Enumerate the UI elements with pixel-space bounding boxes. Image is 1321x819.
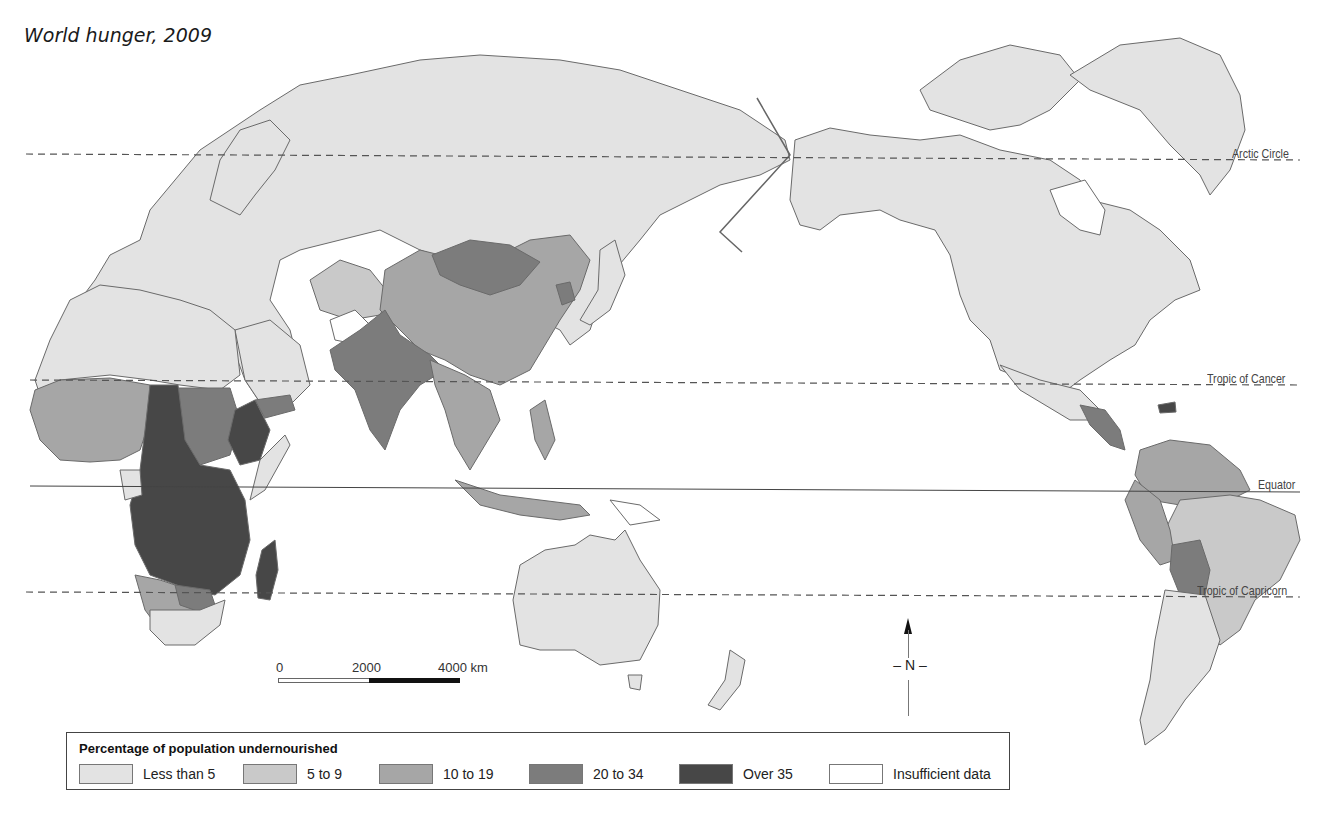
scale-tick-2000: 2000 xyxy=(352,660,381,675)
north-label: – N – xyxy=(880,657,940,673)
legend-swatch xyxy=(829,764,883,784)
west-africa xyxy=(30,378,150,462)
new-zealand xyxy=(708,650,745,710)
north-arrow: – N – xyxy=(880,610,940,720)
philippines xyxy=(530,400,555,460)
arctic-islands xyxy=(920,45,1080,130)
central-asia xyxy=(310,260,390,320)
legend-swatch xyxy=(243,764,297,784)
central-america xyxy=(1080,405,1125,450)
scale-tick-0: 0 xyxy=(276,660,283,675)
legend-item-over-35: Over 35 xyxy=(679,763,793,785)
indonesia xyxy=(455,480,590,520)
tropic-of-cancer-label: Tropic of Cancer xyxy=(1207,371,1285,386)
scale-bar: 0 2000 4000 km xyxy=(276,660,516,690)
legend-title: Percentage of population undernourished xyxy=(79,741,338,756)
north-america xyxy=(790,128,1200,395)
legend-swatch xyxy=(79,764,133,784)
arctic-circle-label: Arctic Circle xyxy=(1232,146,1289,161)
haiti xyxy=(1158,402,1176,413)
legend-item-less-than-5: Less than 5 xyxy=(79,763,215,785)
scale-tick-4000: 4000 km xyxy=(438,660,488,675)
australia xyxy=(513,530,660,665)
southern-cone xyxy=(1140,590,1220,745)
greenland xyxy=(1070,38,1245,195)
tropic-of-capricorn-label: Tropic of Capricorn xyxy=(1197,583,1287,598)
papua xyxy=(610,500,660,525)
legend-item-insufficient-data: Insufficient data xyxy=(829,763,991,785)
legend-item-10-to-19: 10 to 19 xyxy=(379,763,494,785)
tasmania xyxy=(628,675,642,690)
equator-label: Equator xyxy=(1258,477,1295,492)
legend: Percentage of population undernourished … xyxy=(66,732,1010,790)
scale-bar-black-segment xyxy=(369,678,460,683)
gabon xyxy=(120,470,142,500)
legend-swatch xyxy=(379,764,433,784)
madagascar xyxy=(256,540,278,600)
scale-bar-white-segment xyxy=(278,678,370,683)
legend-item-20-to-34: 20 to 34 xyxy=(529,763,644,785)
legend-item-5-to-9: 5 to 9 xyxy=(243,763,342,785)
legend-swatch xyxy=(529,764,583,784)
world-map xyxy=(0,0,1321,819)
arabia xyxy=(235,320,310,410)
legend-swatch xyxy=(679,764,733,784)
